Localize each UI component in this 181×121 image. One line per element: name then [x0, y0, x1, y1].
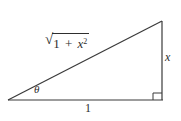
right-angle-marker — [153, 93, 162, 100]
opposite-side-label: x — [165, 51, 170, 63]
radicand-exponent: 2 — [83, 37, 87, 46]
hypotenuse-label: √ 1 + x2 — [45, 33, 89, 50]
radicand-body: 1 + — [53, 36, 77, 51]
base-side-label: 1 — [85, 102, 91, 114]
triangle-diagram: √ 1 + x2 θ x 1 — [0, 0, 181, 121]
angle-label: θ — [34, 84, 39, 95]
radicand: 1 + x2 — [52, 33, 89, 50]
